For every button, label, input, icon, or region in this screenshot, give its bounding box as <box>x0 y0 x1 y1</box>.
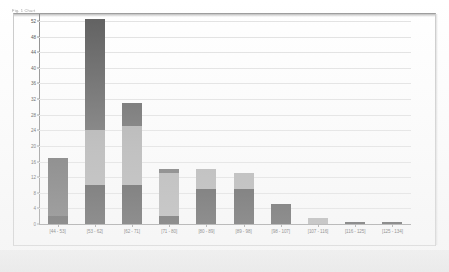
bar-segment[interactable] <box>234 189 254 224</box>
bar-segment[interactable] <box>122 185 142 224</box>
x-tick-label: [71 - 80] <box>161 229 177 235</box>
y-tick-label: 12 <box>31 175 36 180</box>
y-tick-label: 4 <box>34 206 36 211</box>
y-tick-label: 16 <box>31 159 36 164</box>
bar-segment[interactable] <box>159 216 179 224</box>
scanned-page: Fig. 1 Chart 0481216202428323640444852 [… <box>0 0 449 272</box>
y-tick-label: 44 <box>31 50 36 55</box>
bar-segment[interactable] <box>85 19 105 130</box>
x-tick-mark <box>318 224 319 227</box>
bar-segment[interactable] <box>159 173 179 216</box>
x-tick-label: [80 - 89] <box>198 229 214 235</box>
x-axis: [44 - 53][53 - 62][62 - 71][71 - 80][80 … <box>39 224 411 246</box>
bar-segment[interactable] <box>48 158 68 217</box>
bar-segment[interactable] <box>234 173 254 189</box>
x-tick-mark <box>244 224 245 227</box>
bar-segment[interactable] <box>196 169 216 189</box>
y-tick-label: 40 <box>31 65 36 70</box>
y-tick-label: 20 <box>31 143 36 148</box>
page-bottom-band <box>0 250 449 272</box>
bar-series-container <box>39 21 411 224</box>
bar-segment[interactable] <box>122 126 142 185</box>
x-tick-label: [98 - 107] <box>272 229 290 235</box>
x-tick-label: [62 - 71] <box>124 229 140 235</box>
y-tick-label: 0 <box>34 222 36 227</box>
bar-segment[interactable] <box>48 216 68 224</box>
y-tick-label: 52 <box>31 19 36 24</box>
x-tick-label: [125 - 134] <box>382 229 403 235</box>
x-tick-label: [44 - 53] <box>50 229 66 235</box>
chart-frame: 0481216202428323640444852 [44 - 53][53 -… <box>13 13 436 246</box>
x-tick-mark <box>95 224 96 227</box>
bar-group[interactable] <box>159 169 179 224</box>
x-tick-mark <box>58 224 59 227</box>
frame-top-shadow <box>14 14 435 17</box>
x-tick-label: [116 - 125] <box>345 229 366 235</box>
x-tick-mark <box>169 224 170 227</box>
bar-segment[interactable] <box>85 130 105 185</box>
x-tick-label: [107 - 116] <box>308 229 329 235</box>
x-tick-mark <box>132 224 133 227</box>
bar-segment[interactable] <box>85 185 105 224</box>
x-tick-mark <box>281 224 282 227</box>
x-tick-mark <box>355 224 356 227</box>
x-tick-label: [89 - 98] <box>236 229 252 235</box>
bar-group[interactable] <box>85 19 105 224</box>
bar-group[interactable] <box>122 103 142 224</box>
x-tick-label: [53 - 62] <box>87 229 103 235</box>
bar-segment[interactable] <box>196 189 216 224</box>
bar-group[interactable] <box>234 173 254 224</box>
bar-segment[interactable] <box>271 204 291 224</box>
y-tick-label: 8 <box>34 190 36 195</box>
bar-segment[interactable] <box>122 103 142 126</box>
y-tick-label: 48 <box>31 34 36 39</box>
x-tick-mark <box>392 224 393 227</box>
y-tick-label: 28 <box>31 112 36 117</box>
bar-group[interactable] <box>271 204 291 224</box>
bar-group[interactable] <box>196 169 216 224</box>
x-tick-mark <box>206 224 207 227</box>
y-tick-label: 32 <box>31 97 36 102</box>
bar-group[interactable] <box>48 158 68 224</box>
plot-area: 0481216202428323640444852 <box>39 21 411 224</box>
y-tick-label: 36 <box>31 81 36 86</box>
frame-right-shadow <box>435 14 438 245</box>
y-tick-label: 24 <box>31 128 36 133</box>
